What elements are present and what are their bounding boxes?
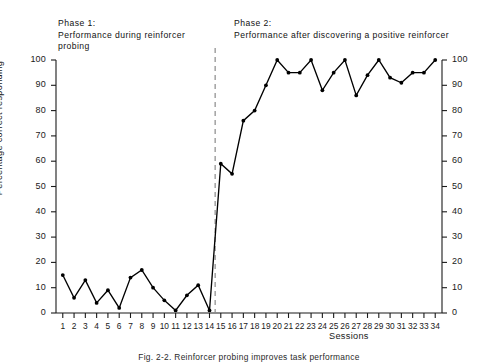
y-tick-label-right: 0 [452,307,478,317]
data-line [63,60,435,310]
x-tick-label: 34 [428,321,442,331]
line-chart [56,60,442,313]
y-tick-label-right: 10 [452,282,478,292]
y-tick-label-left: 20 [20,256,46,266]
y-tick-label-right: 40 [452,206,478,216]
figure-caption: Fig. 2-2. Reinforcer probing improves ta… [0,352,498,363]
axes [51,60,447,318]
y-tick-label-left: 60 [20,155,46,165]
y-tick-label-right: 90 [452,79,478,89]
y-tick-label-right: 20 [452,256,478,266]
y-tick-label-left: 70 [20,130,46,140]
data-points [61,58,437,312]
y-tick-label-left: 100 [20,54,46,64]
x-axis-label: Sessions [329,331,369,341]
y-tick-label-left: 0 [20,307,46,317]
y-tick-label-left: 90 [20,79,46,89]
y-tick-label-right: 80 [452,105,478,115]
y-tick-label-left: 80 [20,105,46,115]
y-tick-label-right: 30 [452,231,478,241]
plot-area [56,60,442,313]
y-axis-label: Percentage correct responding [0,61,4,195]
y-tick-label-left: 40 [20,206,46,216]
y-tick-label-left: 10 [20,282,46,292]
y-tick-label-right: 60 [452,155,478,165]
figure-container: Phase 1: Performance during reinforcer p… [0,0,498,363]
phase-2-title: Phase 2: Performance after discovering a… [234,18,464,41]
phase-1-title: Phase 1: Performance during reinforcer p… [58,18,218,53]
y-tick-label-right: 70 [452,130,478,140]
y-tick-label-left: 50 [20,181,46,191]
y-tick-label-right: 50 [452,181,478,191]
y-tick-label-right: 100 [452,54,478,64]
y-tick-label-left: 30 [20,231,46,241]
